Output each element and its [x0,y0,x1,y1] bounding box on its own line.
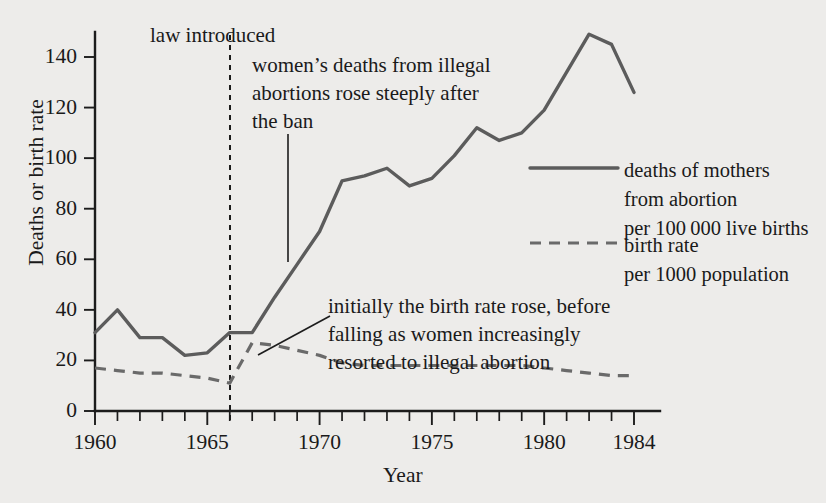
y-tick-label: 0 [0,397,77,425]
x-tick-label: 1960 [61,429,129,457]
x-tick-label: 1970 [286,429,354,457]
annotation-deaths-line-3: the ban [252,108,313,135]
chart-figure: Deaths or birth rate Year 14012010080604… [0,0,826,503]
x-tick-label: 1984 [600,429,668,457]
y-tick-label: 100 [0,144,77,172]
annotation-birthrate-line-2: falling as women increasingly [328,321,581,348]
y-axis-ticks [84,57,95,411]
legend-label-birthrate-2: per 1000 population [624,261,789,287]
annotation-birthrate-line-1: initially the birth rate rose, before [328,293,610,320]
y-tick-label: 140 [0,43,77,71]
y-tick-label: 40 [0,296,77,324]
y-tick-label: 120 [0,94,77,122]
legend-label-deaths-1: deaths of mothers [624,157,770,183]
x-tick-label: 1975 [398,429,466,457]
annotation-law-introduced: law introduced [150,22,275,49]
legend-label-deaths-2: from abortion [624,186,737,212]
annotation-birthrate-line-3: resorted to illegal abortion [328,349,550,376]
annotation-deaths-line-2: abortions rose steeply after [252,80,479,107]
y-tick-label: 60 [0,245,77,273]
legend-label-birthrate-1: birth rate [624,232,699,258]
x-axis-ticks [95,411,634,425]
y-tick-label: 80 [0,195,77,223]
birth-note-leader [258,316,330,355]
x-axis-title: Year [383,462,423,490]
x-tick-label: 1965 [173,429,241,457]
x-tick-label: 1980 [510,429,578,457]
annotation-deaths-line-1: women’s deaths from illegal [252,52,491,79]
y-tick-label: 20 [0,346,77,374]
